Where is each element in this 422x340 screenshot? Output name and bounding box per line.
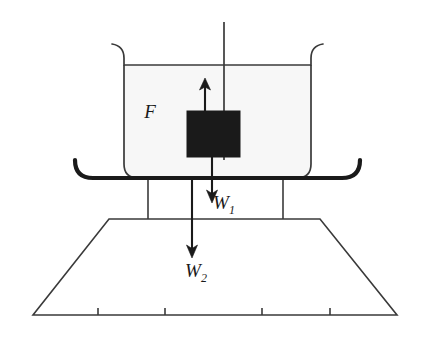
suspended-block [187,111,240,157]
container-rim-right [311,44,323,65]
label-weight-one-subscript: 1 [229,203,235,217]
ground-tick-group [98,308,330,315]
container-rim-left [112,44,124,65]
label-buoyant-force: F [143,101,156,122]
trapezoid-base [33,219,397,315]
trapezoid-base-group [33,219,397,315]
physics-diagram-figure: F W1 W2 [0,0,422,340]
label-weight-two: W2 [185,260,207,285]
diagram-canvas: F W1 W2 [0,0,422,340]
label-weight-one: W1 [213,192,235,217]
label-weight-two-subscript: 2 [201,271,207,285]
